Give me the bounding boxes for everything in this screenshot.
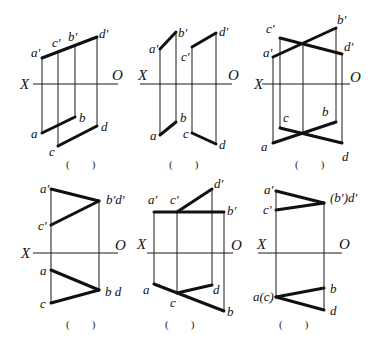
point-label: c [40, 296, 46, 311]
segment-projection [160, 122, 176, 135]
point-label: d [101, 119, 108, 134]
segment-projection [273, 28, 336, 57]
segment-projection [58, 126, 97, 146]
panel-5: XOa′c′d′b′acdb( ) [136, 176, 242, 331]
point-label: c′ [181, 49, 190, 64]
answer-blank[interactable]: ( ) [295, 158, 325, 171]
segment-projection [192, 33, 216, 47]
panel-4: XOa′b′d′c′ab dc( ) [20, 181, 126, 331]
segment-projection [276, 288, 324, 297]
segment-projection [51, 189, 99, 201]
axis-label-x: X [19, 76, 30, 92]
answer-blank[interactable]: ( ) [66, 158, 96, 171]
point-label: d [342, 149, 349, 164]
axis-label-o: O [231, 237, 242, 253]
answer-blank[interactable]: ( ) [165, 318, 195, 331]
point-label: a(c) [253, 289, 274, 304]
axis-label-x: X [20, 245, 31, 261]
axis-label-x: X [136, 236, 147, 252]
segment-projection [51, 290, 99, 303]
axis-label-o: O [339, 236, 350, 252]
segment-projection [276, 191, 324, 203]
axis-label-o: O [115, 237, 126, 253]
point-label: b′d′ [106, 192, 125, 207]
point-label: b′ [178, 25, 188, 40]
point-label: b′ [337, 12, 347, 27]
point-label: a′ [264, 182, 274, 197]
axis-label-x: X [137, 67, 148, 83]
point-label: b [330, 281, 337, 296]
segment-projection [51, 201, 99, 225]
point-label: d′ [219, 24, 229, 39]
point-label: d [219, 137, 226, 152]
point-label: c′ [170, 192, 179, 207]
segment-projection [177, 285, 212, 293]
axis-label-x: X [256, 236, 267, 252]
answer-blank[interactable]: ( ) [66, 318, 96, 331]
point-label: c′ [263, 202, 272, 217]
point-label: a′ [40, 181, 50, 196]
point-label: c [283, 110, 289, 125]
point-label: (b′)d′ [330, 190, 358, 205]
point-label: a′ [149, 41, 159, 56]
axis-label-o: O [350, 69, 361, 85]
point-label: c [170, 295, 176, 310]
projection-diagrams: XOa′c′b′d′abcd( )XOa′b′c′d′abcd( )XOc′b′… [0, 0, 377, 354]
point-label: a′ [148, 192, 158, 207]
point-label: b [180, 110, 187, 125]
point-label: d′ [214, 176, 224, 191]
axis-label-x: X [253, 76, 264, 92]
point-label: b [227, 304, 234, 319]
point-label: c′ [52, 35, 61, 50]
panel-6: XOa′c′(b′)d′a(c)bd( ) [253, 182, 358, 331]
point-label: b d [105, 284, 122, 299]
segment-projection [177, 189, 212, 212]
point-label: b [322, 104, 329, 119]
axis-label-o: O [112, 67, 123, 83]
segment-projection [276, 203, 324, 210]
point-label: a′ [263, 45, 273, 60]
panel-3: XOc′b′a′d′cbad( ) [253, 12, 361, 171]
point-label: a′ [31, 45, 41, 60]
panel-1: XOa′c′b′d′abcd( ) [19, 26, 123, 171]
answer-blank[interactable]: ( ) [279, 318, 309, 331]
point-label: c′ [38, 218, 47, 233]
point-label: b [79, 110, 86, 125]
point-label: d [213, 282, 220, 297]
point-label: d′ [99, 26, 109, 41]
panel-2: XOa′b′c′d′abcd( ) [137, 24, 239, 171]
point-label: c [49, 144, 55, 159]
point-label: d′ [344, 39, 354, 54]
answer-blank[interactable]: ( ) [169, 158, 199, 171]
point-label: a [40, 263, 47, 278]
segment-projection [160, 32, 176, 49]
point-label: a [31, 126, 38, 141]
point-label: c′ [266, 21, 275, 36]
segment-projection [192, 133, 216, 144]
point-label: a [261, 139, 268, 154]
point-label: b′ [227, 203, 237, 218]
point-label: b′ [68, 29, 78, 44]
point-label: a [143, 282, 150, 297]
point-label: d [330, 303, 337, 318]
projection-exercise-sheet: XOa′c′b′d′abcd( )XOa′b′c′d′abcd( )XOc′b′… [0, 0, 377, 354]
point-label: a [150, 128, 157, 143]
segment-projection [276, 297, 324, 310]
axis-label-o: O [228, 67, 239, 83]
segment-projection [51, 270, 99, 290]
point-label: c [183, 126, 189, 141]
